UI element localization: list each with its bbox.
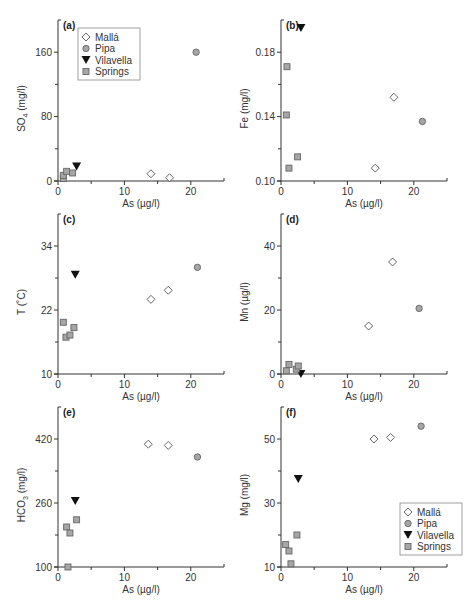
y-tick-label: 10 xyxy=(41,369,53,380)
x-tick-label: 0 xyxy=(278,186,284,197)
data-point xyxy=(64,524,70,530)
panel-label: (a) xyxy=(63,20,75,31)
axes: 10305001020 xyxy=(264,407,447,583)
data-point xyxy=(283,542,289,548)
data-point xyxy=(371,164,379,172)
series-mall xyxy=(370,433,395,443)
chart-panel-f: 10305001020As (µg/l)Mg (mg/l)(f)MalláPip… xyxy=(239,407,462,595)
data-point xyxy=(387,433,395,441)
data-point xyxy=(288,561,294,567)
series-pipa xyxy=(194,264,200,270)
legend-label: Mallá xyxy=(417,507,441,518)
series-pipa xyxy=(193,49,199,55)
data-point xyxy=(365,322,373,330)
y-tick-label: 100 xyxy=(35,562,52,573)
series-mall xyxy=(147,170,174,182)
y-axis-label: Mn (µg/l) xyxy=(239,282,250,322)
data-point xyxy=(72,163,81,171)
y-tick-label: 80 xyxy=(41,111,53,122)
panel-label: (e) xyxy=(63,407,75,418)
data-point xyxy=(416,305,422,311)
chart-panel-e: 10026042001020As (µg/l)HCO3 (mg/l)(e) xyxy=(16,407,224,595)
data-point xyxy=(294,475,303,483)
series-pipa xyxy=(194,454,200,460)
x-tick-label: 20 xyxy=(185,379,197,390)
y-axis-label: Mg (mg/l) xyxy=(239,474,250,516)
data-point xyxy=(74,517,80,523)
legend-label: Vilavella xyxy=(95,55,132,66)
data-point xyxy=(286,165,292,171)
data-point xyxy=(389,258,397,266)
x-axis-label: As (µg/l) xyxy=(345,198,382,209)
data-point xyxy=(370,435,378,443)
data-point xyxy=(286,361,292,367)
data-point xyxy=(283,368,289,374)
panel-label: (c) xyxy=(63,214,75,225)
series-vilavella xyxy=(72,163,81,171)
data-point xyxy=(147,170,155,178)
chart-panel-c: 10223401020As (µg/l)T (˚C)(c) xyxy=(16,214,224,402)
x-tick-label: 0 xyxy=(278,379,284,390)
series-springs xyxy=(283,361,301,373)
chart-panel-a: 08016001020As (µg/l)SO4 (mg/l)(a)MalláPi… xyxy=(16,20,224,209)
data-point xyxy=(144,440,152,448)
y-tick-label: 30 xyxy=(264,498,276,509)
y-tick-label: 40 xyxy=(264,241,276,252)
data-point xyxy=(390,93,398,101)
x-tick-label: 20 xyxy=(408,572,420,583)
y-tick-label: 22 xyxy=(41,305,53,316)
series-springs xyxy=(64,517,80,570)
series-springs xyxy=(60,319,77,340)
data-point xyxy=(71,271,80,279)
data-point xyxy=(164,286,172,294)
y-tick-label: 0.18 xyxy=(256,47,276,58)
legend-label: Springs xyxy=(95,66,129,77)
data-point xyxy=(295,363,301,369)
y-axis-label: SO4 (mg/l) xyxy=(16,85,29,132)
y-axis-label: Fe (mg/l) xyxy=(239,89,250,129)
y-tick-label: 34 xyxy=(41,241,53,252)
data-point xyxy=(71,497,80,505)
x-tick-label: 10 xyxy=(119,186,131,197)
x-axis-label: As (µg/l) xyxy=(345,391,382,402)
legend: MalláPipaVilavellaSprings xyxy=(400,503,462,555)
panel-label: (b) xyxy=(286,20,299,31)
x-tick-label: 20 xyxy=(185,572,197,583)
data-point xyxy=(147,295,155,303)
legend-label: Mallá xyxy=(95,32,119,43)
data-point xyxy=(193,49,199,55)
x-tick-label: 10 xyxy=(342,186,354,197)
x-tick-label: 0 xyxy=(55,572,61,583)
axes: 10223401020 xyxy=(41,214,224,390)
x-tick-label: 0 xyxy=(55,379,61,390)
series-pipa xyxy=(419,118,425,124)
legend: MalláPipaVilavellaSprings xyxy=(78,28,140,80)
data-point xyxy=(418,423,424,429)
axes: 0.100.140.1801020 xyxy=(256,20,447,197)
data-point xyxy=(286,548,292,554)
square-marker-icon xyxy=(83,69,89,75)
series-vilavella xyxy=(294,475,303,483)
y-axis-label: HCO3 (mg/l) xyxy=(16,468,29,522)
x-tick-label: 10 xyxy=(342,572,354,583)
data-point xyxy=(194,264,200,270)
y-tick-label: 0 xyxy=(269,369,275,380)
y-tick-label: 50 xyxy=(264,434,276,445)
data-point xyxy=(295,154,301,160)
y-axis-label: T (˚C) xyxy=(16,289,27,315)
y-tick-label: 0.14 xyxy=(256,111,276,122)
x-axis-label: As (µg/l) xyxy=(122,584,159,595)
x-tick-label: 20 xyxy=(185,186,197,197)
x-tick-label: 10 xyxy=(342,379,354,390)
y-tick-label: 20 xyxy=(264,305,276,316)
x-tick-label: 10 xyxy=(119,379,131,390)
data-point xyxy=(164,441,172,449)
series-pipa xyxy=(416,305,422,311)
data-point xyxy=(294,532,300,538)
data-point xyxy=(64,168,70,174)
x-tick-label: 10 xyxy=(119,572,131,583)
series-vilavella xyxy=(71,271,80,279)
series-mall xyxy=(365,258,397,330)
series-pipa xyxy=(418,423,424,429)
x-axis-label: As (µg/l) xyxy=(345,584,382,595)
